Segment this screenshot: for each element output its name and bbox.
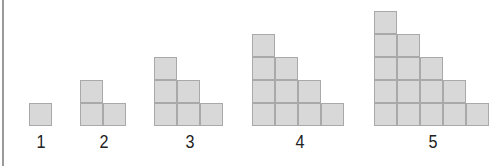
stage-label: 1 — [37, 132, 46, 151]
square-cell — [29, 103, 52, 126]
square-cell — [397, 34, 420, 57]
square-cell — [275, 80, 298, 103]
square-cell — [298, 80, 321, 103]
square-cell — [200, 103, 223, 126]
square-cell — [154, 103, 177, 126]
square-cell — [275, 57, 298, 80]
square-cell — [177, 103, 200, 126]
square-cell — [252, 34, 275, 57]
square-cell — [154, 80, 177, 103]
square-cell — [397, 103, 420, 126]
square-cell — [321, 103, 344, 126]
square-cell — [298, 103, 321, 126]
square-cell — [374, 103, 397, 126]
square-cell — [103, 103, 126, 126]
staircase-figure: 12345 — [0, 0, 501, 166]
square-cell — [397, 57, 420, 80]
square-cell — [420, 103, 443, 126]
square-cell — [374, 11, 397, 34]
square-cell — [252, 57, 275, 80]
square-cell — [443, 80, 466, 103]
square-cell — [177, 80, 200, 103]
square-cell — [443, 103, 466, 126]
left-rule — [2, 0, 4, 166]
square-cell — [80, 80, 103, 103]
square-cell — [420, 80, 443, 103]
stage-label: 5 — [429, 132, 438, 151]
square-cell — [397, 80, 420, 103]
square-cell — [252, 80, 275, 103]
square-cell — [420, 57, 443, 80]
square-cell — [374, 80, 397, 103]
square-cell — [374, 34, 397, 57]
stage-label: 4 — [296, 132, 305, 151]
stage-label: 2 — [100, 132, 109, 151]
stage-label: 3 — [186, 132, 195, 151]
square-cell — [252, 103, 275, 126]
square-cell — [466, 103, 489, 126]
square-cell — [154, 57, 177, 80]
square-cell — [80, 103, 103, 126]
square-cell — [275, 103, 298, 126]
square-cell — [374, 57, 397, 80]
